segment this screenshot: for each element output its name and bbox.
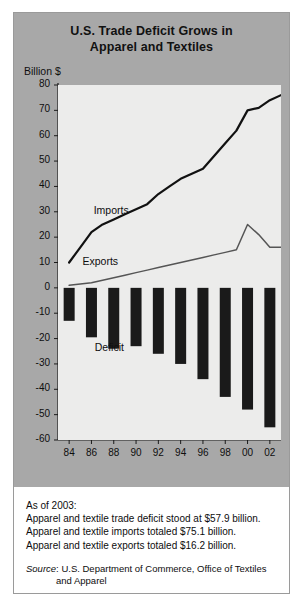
deficit-bar xyxy=(64,288,75,321)
series-label-deficit: Deficit xyxy=(95,341,124,353)
y-tick-label: 0 xyxy=(24,281,50,292)
x-tick-label: 92 xyxy=(147,447,169,458)
chart-panel: U.S. Trade Deficit Grows in Apparel and … xyxy=(14,13,289,487)
deficit-bar xyxy=(242,288,253,410)
y-tick-label: 30 xyxy=(24,205,50,216)
x-tick-label: 84 xyxy=(58,447,80,458)
y-tick-label: -10 xyxy=(24,306,50,317)
x-tick-label: 90 xyxy=(125,447,147,458)
x-tick-label: 88 xyxy=(103,447,125,458)
x-tick-label: 94 xyxy=(170,447,192,458)
source-continuation: and Apparel xyxy=(26,575,277,588)
note-imports: Apparel and textile imports totaled $75.… xyxy=(26,525,277,538)
source-label: Source xyxy=(26,563,56,574)
x-tick-label: 02 xyxy=(259,447,281,458)
y-tick-label: -40 xyxy=(24,382,50,393)
source-note: Source: U.S. Department of Commerce, Off… xyxy=(26,563,277,588)
x-tick-label: 96 xyxy=(192,447,214,458)
y-tick-label: 40 xyxy=(24,179,50,190)
series-label-imports: Imports xyxy=(94,204,129,216)
source-text: : U.S. Department of Commerce, Office of… xyxy=(56,563,266,574)
y-tick-label: 60 xyxy=(24,129,50,140)
series-label-exports: Exports xyxy=(83,255,119,267)
deficit-bar xyxy=(220,288,231,397)
deficit-bar xyxy=(86,288,97,337)
deficit-bar xyxy=(131,288,142,346)
deficit-bar xyxy=(197,288,208,379)
y-tick-label: 80 xyxy=(24,78,50,89)
y-tick-label: -30 xyxy=(24,357,50,368)
y-tick-label: 70 xyxy=(24,103,50,114)
x-tick-label: 98 xyxy=(214,447,236,458)
deficit-bar xyxy=(264,288,275,427)
y-tick-label: 10 xyxy=(24,256,50,267)
x-tick-label: 86 xyxy=(80,447,102,458)
deficit-bar xyxy=(175,288,186,364)
note-exports: Apparel and textile exports totaled $16.… xyxy=(26,539,277,552)
notes-block: As of 2003: Apparel and textile trade de… xyxy=(14,487,289,593)
y-tick-label: -60 xyxy=(24,433,50,444)
deficit-bar xyxy=(108,288,119,349)
x-tick-label: 00 xyxy=(237,447,259,458)
deficit-bar xyxy=(153,288,164,354)
series-line-imports xyxy=(69,95,281,262)
chart-figure: U.S. Trade Deficit Grows in Apparel and … xyxy=(13,12,290,594)
y-tick-label: 50 xyxy=(24,154,50,165)
note-asof: As of 2003: xyxy=(26,499,277,512)
y-tick-label: 20 xyxy=(24,230,50,241)
note-deficit: Apparel and textile trade deficit stood … xyxy=(26,512,277,525)
y-tick-label: -20 xyxy=(24,332,50,343)
y-tick-label: -50 xyxy=(24,408,50,419)
